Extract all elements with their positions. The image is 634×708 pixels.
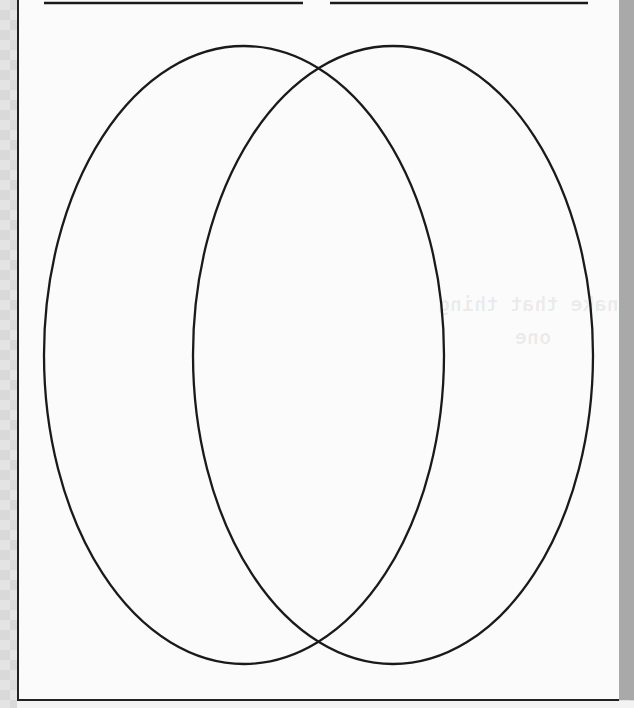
right-circle[interactable] — [193, 46, 593, 664]
left-circle[interactable] — [44, 46, 444, 664]
venn-diagram — [0, 0, 634, 708]
